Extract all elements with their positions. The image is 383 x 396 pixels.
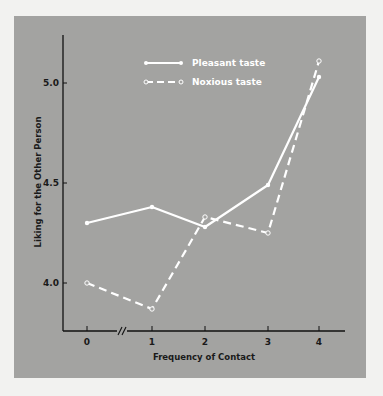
x-axis-title: Frequency of Contact bbox=[153, 352, 255, 362]
data-point-pleasant bbox=[317, 75, 321, 79]
legend-marker bbox=[179, 61, 183, 65]
legend: Pleasant taste Noxious taste bbox=[144, 58, 265, 87]
legend-item-noxious: Noxious taste bbox=[144, 77, 262, 87]
y-tick-label: 5.0 bbox=[43, 78, 59, 88]
x-tick-label: 3 bbox=[265, 337, 271, 347]
y-tick-label: 4.5 bbox=[43, 178, 59, 188]
x-tick-label: 4 bbox=[316, 337, 322, 347]
x-tick-label: 1 bbox=[149, 337, 155, 347]
data-point-noxious bbox=[317, 59, 321, 63]
legend-label-noxious: Noxious taste bbox=[192, 77, 262, 87]
data-point-noxious bbox=[150, 307, 154, 311]
data-point-pleasant bbox=[203, 225, 207, 229]
data-point-noxious bbox=[203, 215, 207, 219]
x-tick-label: 2 bbox=[202, 337, 208, 347]
y-axis-title: Liking for the Other Person bbox=[33, 117, 43, 248]
data-point-pleasant bbox=[150, 205, 154, 209]
data-point-noxious bbox=[266, 231, 270, 235]
y-tick-label: 4.0 bbox=[43, 278, 59, 288]
legend-label-pleasant: Pleasant taste bbox=[192, 58, 265, 68]
axis-break-symbol bbox=[117, 327, 127, 335]
legend-marker bbox=[179, 80, 183, 84]
legend-item-pleasant: Pleasant taste bbox=[144, 58, 265, 68]
data-point-pleasant bbox=[85, 221, 89, 225]
series-group bbox=[85, 59, 321, 311]
data-point-noxious bbox=[85, 281, 89, 285]
legend-marker bbox=[144, 80, 148, 84]
data-point-pleasant bbox=[266, 183, 270, 187]
legend-marker bbox=[144, 61, 148, 65]
chart: 4.04.55.0 01234 Frequency of Contact Lik… bbox=[0, 0, 383, 396]
series-line-noxious bbox=[87, 61, 319, 309]
series-line-pleasant bbox=[87, 77, 319, 227]
x-tick-label: 0 bbox=[84, 337, 90, 347]
